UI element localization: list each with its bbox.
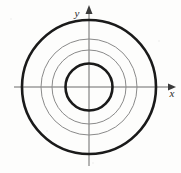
y-axis: [86, 5, 93, 166]
y-axis-label: y: [74, 7, 80, 19]
concentric-circles-diagram: y x: [0, 0, 181, 173]
y-axis-arrowhead: [86, 5, 93, 14]
x-axis: [14, 84, 176, 91]
figure-canvas: y x: [0, 0, 181, 173]
x-axis-label: x: [169, 87, 175, 99]
